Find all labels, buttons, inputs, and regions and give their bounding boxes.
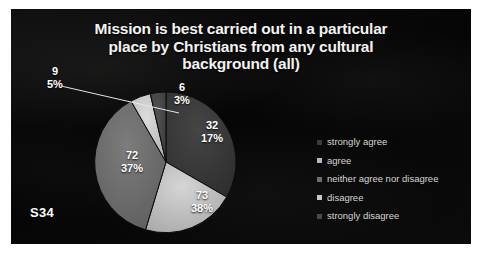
pie-label-strongly-disagree-percent: 3% bbox=[174, 94, 190, 107]
pie-label-strongly-disagree-value: 6 bbox=[174, 81, 190, 94]
legend-item-agree[interactable]: agree bbox=[317, 152, 467, 171]
legend-item-disagree[interactable]: disagree bbox=[317, 189, 467, 208]
presentation-slide: Mission is best carried out in a particu… bbox=[11, 9, 471, 244]
legend-label-disagree: disagree bbox=[327, 193, 363, 203]
chart-title-line-3: background (all) bbox=[45, 55, 437, 73]
pie-label-disagree-percent: 5% bbox=[47, 78, 63, 91]
legend-swatch-icon-strongly-disagree bbox=[317, 214, 322, 219]
legend-swatch-icon-agree bbox=[317, 158, 322, 163]
pie-label-neither-agree-nor-disagree: 72 37% bbox=[121, 149, 143, 174]
slide-id-label: S34 bbox=[30, 205, 54, 220]
legend-label-strongly-agree: strongly agree bbox=[327, 137, 387, 147]
chart-title-line-2: place by Christians from any cultural bbox=[45, 38, 437, 56]
pie-label-disagree-value: 9 bbox=[47, 65, 63, 78]
chart-title-line-1: Mission is best carried out in a particu… bbox=[45, 20, 437, 38]
legend-item-strongly-disagree[interactable]: strongly disagree bbox=[317, 207, 467, 226]
legend-swatch-icon-neither-agree-nor-disagree bbox=[317, 177, 322, 182]
pie-label-neither-value: 72 bbox=[121, 149, 143, 162]
pie-label-strongly-agree-percent: 17% bbox=[201, 132, 223, 145]
pie-label-strongly-disagree: 6 3% bbox=[174, 81, 190, 106]
pie-label-strongly-agree-value: 32 bbox=[201, 119, 223, 132]
chart-title: Mission is best carried out in a particu… bbox=[45, 20, 437, 73]
pie-label-disagree: 9 5% bbox=[47, 65, 63, 90]
legend-item-strongly-agree[interactable]: strongly agree bbox=[317, 133, 467, 152]
pie-label-neither-percent: 37% bbox=[121, 162, 143, 175]
legend-swatch-icon-disagree bbox=[317, 195, 322, 200]
pie-label-strongly-agree: 32 17% bbox=[201, 119, 223, 144]
legend-item-neither-agree-nor-disagree[interactable]: neither agree nor disagree bbox=[317, 170, 467, 189]
pie-chart bbox=[91, 87, 241, 237]
pie-label-agree: 73 38% bbox=[191, 189, 213, 214]
legend-label-strongly-disagree: strongly disagree bbox=[327, 211, 399, 221]
chart-legend: strongly agree agree neither agree nor d… bbox=[317, 133, 467, 226]
pie-label-agree-percent: 38% bbox=[191, 202, 213, 215]
legend-label-neither-agree-nor-disagree: neither agree nor disagree bbox=[327, 174, 438, 184]
legend-label-agree: agree bbox=[327, 156, 351, 166]
legend-swatch-icon-strongly-agree bbox=[317, 140, 322, 145]
pie-chart-svg bbox=[91, 87, 241, 237]
pie-label-agree-value: 73 bbox=[191, 189, 213, 202]
